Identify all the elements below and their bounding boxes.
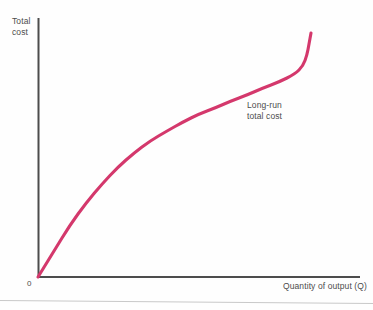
x-axis-title: Quantity of output (Q)	[283, 281, 367, 292]
chart-canvas	[0, 0, 373, 310]
y-axis-title: Total cost	[12, 16, 30, 38]
long-run-total-cost-curve	[38, 33, 311, 277]
figure-container: Total cost Quantity of output (Q) 0 Long…	[0, 0, 373, 310]
footer-divider	[0, 301, 373, 304]
origin-label: 0	[27, 278, 32, 289]
curve-annotation-label: Long-run total cost	[247, 100, 282, 121]
